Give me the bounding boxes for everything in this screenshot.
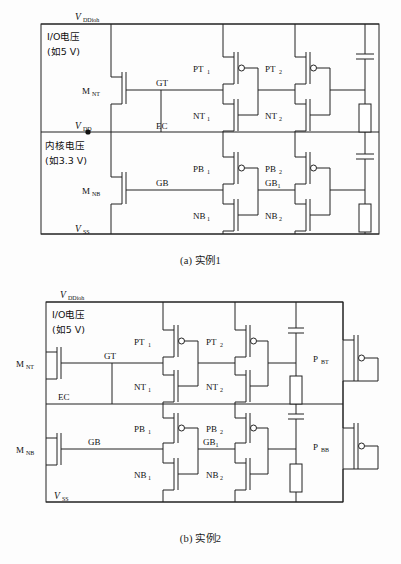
device-pbt-b: P BT (313, 302, 378, 404)
svg-text:2: 2 (220, 475, 223, 481)
device-mnb-b: M NB (16, 433, 150, 465)
svg-text:2: 2 (279, 216, 282, 222)
svg-text:PB: PB (265, 164, 276, 174)
svg-text:1: 1 (207, 116, 210, 122)
svg-text:(如3.3 V): (如3.3 V) (45, 155, 87, 166)
passive-cap-top-a (356, 24, 374, 90)
rail-label-vddioh-a: V DDioh I/O电压 (如5 V) (47, 12, 99, 57)
device-nb1-b: NB 1 (134, 449, 198, 502)
svg-text:SS: SS (83, 229, 90, 235)
svg-text:2: 2 (220, 387, 223, 393)
rail-label-vss-a: V SS (75, 224, 90, 235)
rail-label-vss-b: V SS (54, 491, 69, 502)
svg-text:BT: BT (321, 359, 329, 365)
passive-res-bot-b (290, 449, 302, 502)
svg-text:NB: NB (134, 470, 147, 480)
device-nb1-a: NB 1 (193, 190, 258, 234)
circuit-diagram-a: V DDioh I/O电压 (如5 V) V DD 内核电压 (如3.3 V) … (0, 0, 401, 250)
svg-text:I/O电压: I/O电压 (47, 31, 80, 42)
svg-text:NT: NT (206, 382, 218, 392)
svg-text:PT: PT (134, 337, 145, 347)
svg-text:PT: PT (206, 337, 217, 347)
svg-text:DD: DD (83, 126, 92, 132)
svg-text:内核电压: 内核电压 (45, 140, 85, 151)
svg-text:1: 1 (207, 69, 210, 75)
svg-text:NB: NB (193, 211, 206, 221)
svg-text:(如5 V): (如5 V) (52, 324, 85, 335)
figure-page: V DDioh I/O电压 (如5 V) V DD 内核电压 (如3.3 V) … (0, 0, 401, 564)
svg-text:1: 1 (207, 169, 210, 175)
passive-cap-top-b (288, 302, 304, 363)
svg-text:NT: NT (92, 91, 100, 97)
net-label-gt-b: GT (104, 351, 116, 361)
passive-res-top-a (359, 90, 371, 132)
svg-text:1: 1 (207, 216, 210, 222)
caption-figure-a: (a) 实例1 (0, 252, 401, 267)
svg-text:NT: NT (193, 111, 205, 121)
device-nt1-a: NT 1 (193, 90, 258, 132)
passive-cap-bot-a (356, 132, 374, 190)
svg-text:DDioh: DDioh (68, 295, 84, 301)
passive-res-bot-a (359, 190, 371, 234)
device-nt2-a: NT 2 (265, 90, 330, 132)
svg-text:M: M (16, 445, 24, 455)
svg-text:PB: PB (193, 164, 204, 174)
net-label-ec-b: EC (58, 392, 70, 402)
svg-text:M: M (82, 86, 90, 96)
svg-text:V: V (54, 491, 61, 501)
svg-text:P: P (313, 354, 318, 364)
svg-text:V: V (75, 121, 82, 131)
device-pt1-b: PT 1 (134, 302, 198, 363)
device-mnb-a: M NB (82, 132, 205, 234)
svg-text:DDioh: DDioh (83, 17, 99, 23)
caption-figure-b: (b) 实例2 (0, 530, 401, 545)
net-label-gb1-b: GB1 (203, 437, 219, 448)
device-pt2-b: PT 2 (206, 302, 268, 363)
svg-text:M: M (82, 186, 90, 196)
net-label-gt-a: GT (156, 78, 168, 88)
rail-label-vddioh-b: V DDioh I/O电压 (如5 V) (52, 290, 85, 335)
svg-text:(如5 V): (如5 V) (47, 46, 80, 57)
svg-text:PT: PT (265, 64, 276, 74)
svg-text:2: 2 (279, 169, 282, 175)
device-pt1-a: PT 1 (193, 24, 258, 90)
svg-text:2: 2 (279, 116, 282, 122)
device-mnt-a: M NT (82, 24, 205, 132)
passive-cap-bot-b (288, 404, 304, 449)
svg-text:NT: NT (134, 382, 146, 392)
net-label-gb-b: GB (88, 437, 101, 447)
net-label-gb1-a: GB1 (265, 178, 281, 189)
svg-text:1: 1 (148, 475, 151, 481)
svg-text:NB: NB (92, 191, 100, 197)
circuit-diagram-b: V DDioh I/O电压 (如5 V) V SS M NT GT EC (0, 278, 401, 533)
svg-text:NT: NT (26, 364, 34, 370)
svg-text:1: 1 (148, 387, 151, 393)
device-pb1-b: PB 1 (134, 404, 198, 449)
rail-label-vdd-a: V DD 内核电压 (如3.3 V) (45, 121, 92, 166)
svg-text:M: M (16, 359, 24, 369)
svg-text:PB: PB (206, 424, 217, 434)
net-label-ec-a: EC (156, 121, 168, 131)
device-nt2-b: NT 2 (206, 363, 268, 404)
passive-res-top-b (290, 363, 302, 404)
device-pt2-a: PT 2 (265, 24, 330, 90)
frame-a (41, 24, 379, 234)
svg-text:SS: SS (62, 496, 69, 502)
svg-text:BB: BB (321, 447, 329, 453)
device-mnt-b: M NT (16, 347, 150, 379)
svg-text:NB: NB (206, 470, 219, 480)
svg-text:I/O电压: I/O电压 (52, 309, 85, 320)
device-nt1-b: NT 1 (134, 363, 198, 404)
svg-text:2: 2 (220, 429, 223, 435)
device-nb2-b: NB 2 (206, 449, 268, 502)
svg-text:1: 1 (148, 342, 151, 348)
svg-text:2: 2 (279, 69, 282, 75)
svg-text:NB: NB (26, 450, 34, 456)
svg-text:NB: NB (265, 211, 278, 221)
device-pb1-a: PB 1 (193, 132, 258, 190)
svg-text:V: V (60, 290, 67, 300)
svg-text:PB: PB (134, 424, 145, 434)
svg-text:2: 2 (220, 342, 223, 348)
svg-text:V: V (75, 12, 82, 22)
net-label-gb-a: GB (156, 178, 169, 188)
